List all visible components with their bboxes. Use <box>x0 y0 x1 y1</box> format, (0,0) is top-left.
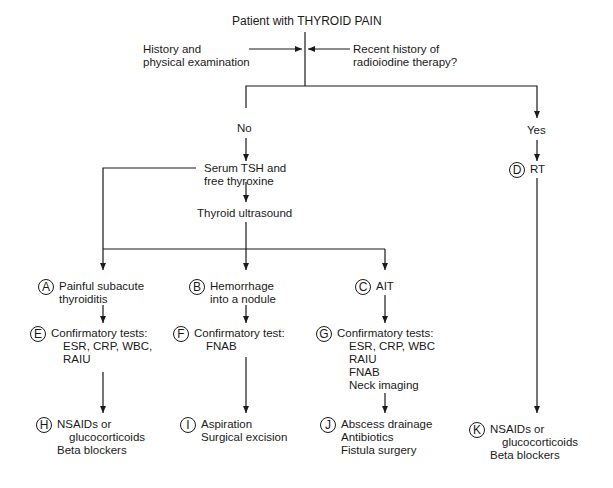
node-b-line1: Hemorrhage <box>210 280 276 293</box>
node-g-line4: FNAB <box>337 366 435 379</box>
node-g-line5: Neck imaging <box>337 379 435 392</box>
node-j-line1: Abscess drainage <box>341 418 432 431</box>
node-i-line2: Surgical excision <box>201 431 287 444</box>
flowchart-title: Patient with THYROID PAIN <box>232 15 382 28</box>
node-k-letter-badge: K <box>469 422 485 438</box>
node-g-line1: Confirmatory tests: <box>337 327 435 340</box>
input-history-line2: physical examination <box>143 56 250 69</box>
node-c-letter-badge: C <box>355 279 371 295</box>
node-b-hemorrhage: B Hemorrhage into a nodule <box>189 280 276 306</box>
step-ultrasound: Thyroid ultrasound <box>197 207 292 220</box>
step-serum-line2: free thyroxine <box>204 175 274 188</box>
node-b-letter-badge: B <box>189 279 205 295</box>
node-e-letter-badge: E <box>30 326 46 342</box>
node-j-line2: Antibiotics <box>341 431 432 444</box>
node-i-treatment: I Aspiration Surgical excision <box>180 418 287 444</box>
node-j-treatment: J Abscess drainage Antibiotics Fistula s… <box>320 418 432 457</box>
node-d-letter-badge: D <box>509 162 525 178</box>
node-k-line3: Beta blockers <box>490 449 578 462</box>
node-b-line2: into a nodule <box>210 293 276 306</box>
node-e-line2: ESR, CRP, WBC, <box>51 340 152 353</box>
node-e-line1: Confirmatory tests: <box>51 327 152 340</box>
node-a-painful-subacute-thyroiditis: A Painful subacute thyroiditis <box>38 280 144 306</box>
node-g-line2: ESR, CRP, WBC <box>337 340 435 353</box>
node-i-line1: Aspiration <box>201 418 287 431</box>
branch-yes-label: Yes <box>527 124 546 137</box>
node-j-letter-badge: J <box>320 417 336 433</box>
node-f-line2: FNAB <box>194 340 285 353</box>
branch-no-label: No <box>237 122 252 135</box>
node-a-line2: thyroiditis <box>59 293 144 306</box>
node-g-line3: RAIU <box>337 353 435 366</box>
node-h-treatment: H NSAIDs or glucocorticoids Beta blocker… <box>36 418 145 457</box>
node-h-letter-badge: H <box>36 417 52 433</box>
node-j-line3: Fistula surgery <box>341 444 432 457</box>
node-d-line1: RT <box>530 163 545 176</box>
node-k-line1: NSAIDs or <box>490 423 578 436</box>
node-g-confirmatory-tests: G Confirmatory tests: ESR, CRP, WBC RAIU… <box>316 327 435 392</box>
node-e-confirmatory-tests: E Confirmatory tests: ESR, CRP, WBC, RAI… <box>30 327 152 366</box>
node-h-line1: NSAIDs or <box>57 418 145 431</box>
node-h-line3: Beta blockers <box>57 444 145 457</box>
node-f-line1: Confirmatory test: <box>194 327 285 340</box>
node-g-letter-badge: G <box>316 326 332 342</box>
input-radioiodine-line1: Recent history of <box>353 43 439 56</box>
node-c-line1: AIT <box>376 280 394 293</box>
node-i-letter-badge: I <box>180 417 196 433</box>
node-f-letter-badge: F <box>173 326 189 342</box>
node-a-letter-badge: A <box>38 279 54 295</box>
node-k-treatment: K NSAIDs or glucocorticoids Beta blocker… <box>469 423 578 462</box>
flowchart-connectors <box>0 0 613 488</box>
node-e-line3: RAIU <box>51 353 152 366</box>
node-f-confirmatory-test: F Confirmatory test: FNAB <box>173 327 285 353</box>
node-d-rt: D RT <box>509 163 545 178</box>
step-serum-line1: Serum TSH and <box>204 162 286 175</box>
node-k-line2: glucocorticoids <box>490 436 578 449</box>
input-history-line1: History and <box>143 43 201 56</box>
node-h-line2: glucocorticoids <box>57 431 145 444</box>
node-c-ait: C AIT <box>355 280 394 295</box>
thyroid-pain-flowchart: Patient with THYROID PAIN History and ph… <box>0 0 613 488</box>
node-a-line1: Painful subacute <box>59 280 144 293</box>
input-radioiodine-line2: radioiodine therapy? <box>353 56 457 69</box>
